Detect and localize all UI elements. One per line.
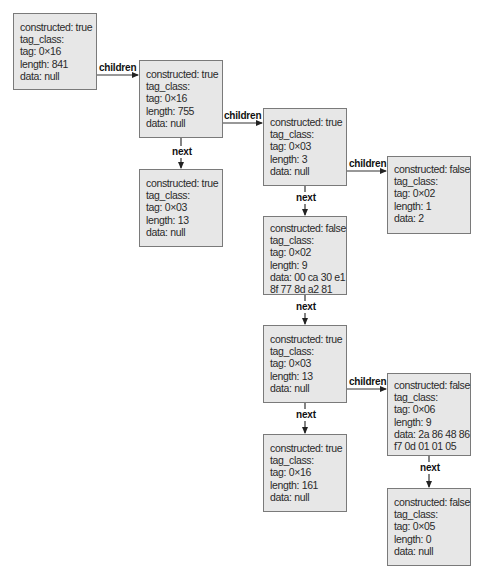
node-field: data: 00 ca 30 e1 bbox=[270, 271, 346, 283]
node-field: constructed: true bbox=[270, 333, 346, 345]
node-field: tag: 0×16 bbox=[20, 45, 96, 57]
node-field: tag: 0×02 bbox=[270, 246, 346, 258]
node-algorithm-container: constructed: true tag_class: tag: 0×03 l… bbox=[263, 325, 347, 403]
node-field: constructed: true bbox=[20, 21, 96, 33]
node-field: data: null bbox=[270, 491, 346, 503]
node-field: tag_class: bbox=[20, 33, 96, 45]
node-field: tag: 0×03 bbox=[270, 357, 346, 369]
node-version-integer: constructed: false tag_class: tag: 0×02 … bbox=[387, 156, 471, 234]
node-field: length: 3 bbox=[270, 153, 346, 165]
node-field: length: 1 bbox=[394, 200, 470, 212]
node-field: tag: 0×03 bbox=[270, 140, 346, 152]
node-field: constructed: false bbox=[270, 222, 346, 234]
node-tbs-sequence: constructed: true tag_class: tag: 0×16 l… bbox=[139, 60, 223, 138]
node-field: constructed: false bbox=[394, 496, 470, 508]
node-field: tag: 0×16 bbox=[270, 466, 346, 478]
node-field: tag: 0×03 bbox=[146, 201, 222, 213]
edge-label-next: next bbox=[296, 192, 316, 203]
edge-label-children: children bbox=[349, 158, 386, 169]
edge-label-children: children bbox=[349, 376, 386, 387]
node-field: length: 13 bbox=[146, 214, 222, 226]
node-field: data: null bbox=[270, 165, 346, 177]
node-field: tag_class: bbox=[394, 391, 470, 403]
node-field: tag_class: bbox=[394, 175, 470, 187]
node-algorithm-oid: constructed: false tag_class: tag: 0×06 … bbox=[387, 373, 471, 456]
node-field: tag: 0×05 bbox=[394, 520, 470, 532]
node-field: length: 13 bbox=[270, 370, 346, 382]
node-field: tag_class: bbox=[146, 80, 222, 92]
node-field: constructed: false bbox=[394, 379, 470, 391]
node-field: length: 9 bbox=[394, 416, 470, 428]
node-field: tag_class: bbox=[270, 234, 346, 246]
node-null-params: constructed: false tag_class: tag: 0×05 … bbox=[387, 488, 471, 566]
node-field: data: null bbox=[394, 545, 470, 557]
node-root-sequence: constructed: true tag_class: tag: 0×16 l… bbox=[13, 13, 97, 90]
edge-label-children: children bbox=[99, 62, 136, 73]
node-field: data: null bbox=[146, 117, 222, 129]
node-field: constructed: true bbox=[146, 177, 222, 189]
node-serial-integer: constructed: false tag_class: tag: 0×02 … bbox=[263, 216, 347, 295]
node-field: length: 0 bbox=[394, 533, 470, 545]
node-field: data: null bbox=[270, 382, 346, 394]
node-field: tag_class: bbox=[270, 128, 346, 140]
node-field: tag: 0×16 bbox=[146, 92, 222, 104]
node-field: tag: 0×02 bbox=[394, 187, 470, 199]
node-field: data: 2a 86 48 86 bbox=[394, 428, 470, 440]
node-field: tag: 0×06 bbox=[394, 403, 470, 415]
node-field: data: null bbox=[146, 226, 222, 238]
node-field: constructed: true bbox=[270, 442, 346, 454]
node-field: tag_class: bbox=[270, 454, 346, 466]
node-field: length: 9 bbox=[270, 259, 346, 271]
node-field: f7 0d 01 01 05 bbox=[394, 440, 470, 452]
node-field: 8f 77 8d a2 81 bbox=[270, 283, 346, 295]
node-sibling-of-tbs: constructed: true tag_class: tag: 0×03 l… bbox=[139, 169, 223, 247]
node-issuer-sequence: constructed: true tag_class: tag: 0×16 l… bbox=[263, 434, 347, 512]
node-field: data: null bbox=[20, 70, 96, 82]
node-field: length: 161 bbox=[270, 479, 346, 491]
node-field: length: 755 bbox=[146, 105, 222, 117]
edge-label-next: next bbox=[296, 409, 316, 420]
node-field: tag_class: bbox=[394, 508, 470, 520]
node-field: constructed: false bbox=[394, 163, 470, 175]
node-field: tag_class: bbox=[146, 189, 222, 201]
node-field: constructed: true bbox=[270, 116, 346, 128]
edge-label-next: next bbox=[420, 462, 440, 473]
node-field: data: 2 bbox=[394, 212, 470, 224]
node-version-container: constructed: true tag_class: tag: 0×03 l… bbox=[263, 108, 347, 186]
node-field: constructed: true bbox=[146, 68, 222, 80]
edge-label-children: children bbox=[224, 110, 261, 121]
node-field: tag_class: bbox=[270, 345, 346, 357]
edge-label-next: next bbox=[172, 146, 192, 157]
edge-label-next: next bbox=[296, 301, 316, 312]
node-field: length: 841 bbox=[20, 58, 96, 70]
